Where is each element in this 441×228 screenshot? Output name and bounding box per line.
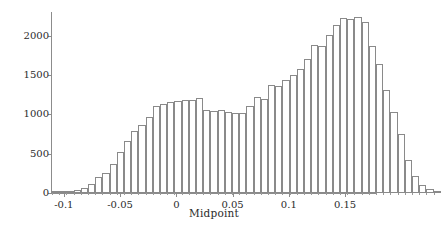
x-axis-minor-tick bbox=[117, 193, 118, 195]
x-axis-minor-tick bbox=[297, 193, 298, 195]
x-axis-minor-tick bbox=[304, 193, 305, 195]
histogram-bar bbox=[354, 17, 361, 193]
x-axis-minor-tick bbox=[340, 193, 341, 195]
x-axis-minor-tick bbox=[434, 193, 435, 195]
histogram-bar bbox=[419, 185, 426, 193]
histogram-bar bbox=[362, 22, 369, 193]
histogram-bar bbox=[225, 112, 232, 193]
histogram-bar bbox=[160, 104, 167, 193]
histogram-bar bbox=[74, 190, 81, 193]
histogram-bar bbox=[304, 59, 311, 193]
x-axis-tick bbox=[289, 193, 290, 197]
x-axis-minor-tick bbox=[419, 193, 420, 195]
histogram-bar bbox=[52, 191, 59, 193]
histogram-bar bbox=[232, 113, 239, 193]
x-axis-minor-tick bbox=[311, 193, 312, 195]
histogram-bar bbox=[333, 25, 340, 193]
x-axis-tick bbox=[64, 193, 65, 197]
x-axis-minor-tick bbox=[124, 193, 125, 195]
x-axis-minor-tick bbox=[275, 193, 276, 195]
x-axis-minor-tick bbox=[347, 193, 348, 195]
histogram-bar bbox=[405, 160, 412, 193]
histogram-bar bbox=[117, 152, 124, 193]
x-axis-minor-tick bbox=[412, 193, 413, 195]
histogram-bar bbox=[146, 117, 153, 193]
histogram-bar bbox=[282, 80, 289, 193]
x-axis-line bbox=[51, 193, 376, 194]
x-axis-minor-tick bbox=[110, 193, 111, 195]
histogram-bar bbox=[167, 102, 174, 193]
histogram-bars bbox=[52, 12, 376, 193]
x-axis-tick bbox=[176, 193, 177, 197]
x-axis-minor-tick bbox=[369, 193, 370, 195]
x-axis-minor-tick bbox=[59, 193, 60, 195]
histogram-bar bbox=[311, 45, 318, 193]
y-axis-tick-label: 500 bbox=[30, 147, 49, 160]
x-axis-minor-tick bbox=[333, 193, 334, 195]
x-axis-minor-tick bbox=[246, 193, 247, 195]
histogram-bar bbox=[189, 100, 196, 193]
histogram-bar bbox=[297, 69, 304, 193]
x-axis-minor-tick bbox=[88, 193, 89, 195]
y-axis-tick-label: 0 bbox=[43, 186, 49, 199]
histogram-bar bbox=[369, 46, 376, 193]
histogram-bar bbox=[88, 184, 95, 193]
histogram-bar bbox=[81, 188, 88, 193]
x-axis-minor-tick bbox=[282, 193, 283, 195]
x-axis-minor-tick bbox=[405, 193, 406, 195]
x-axis-minor-tick bbox=[390, 193, 391, 195]
histogram-bar bbox=[102, 173, 109, 193]
x-axis-minor-tick bbox=[239, 193, 240, 195]
x-axis-minor-tick bbox=[160, 193, 161, 195]
histogram-bar bbox=[412, 176, 419, 193]
histogram-bar bbox=[261, 99, 268, 193]
x-axis-minor-tick bbox=[326, 193, 327, 195]
histogram-bar bbox=[95, 177, 102, 193]
histogram-bar bbox=[196, 98, 203, 193]
x-axis-minor-tick bbox=[52, 193, 53, 195]
histogram-bar bbox=[239, 113, 246, 193]
histogram-bar bbox=[131, 131, 138, 193]
histogram-bar bbox=[326, 35, 333, 193]
x-axis-minor-tick bbox=[210, 193, 211, 195]
histogram-bar bbox=[66, 191, 73, 193]
histogram-bar bbox=[138, 125, 145, 193]
x-axis-minor-tick bbox=[426, 193, 427, 195]
x-axis-minor-tick bbox=[138, 193, 139, 195]
x-axis-minor-tick bbox=[167, 193, 168, 195]
histogram-bar bbox=[218, 110, 225, 193]
x-axis-minor-tick bbox=[174, 193, 175, 195]
x-axis-minor-tick bbox=[376, 193, 377, 195]
x-axis-minor-tick bbox=[102, 193, 103, 195]
x-axis-minor-tick bbox=[146, 193, 147, 195]
histogram-bar bbox=[383, 90, 390, 193]
x-axis-minor-tick bbox=[196, 193, 197, 195]
histogram-bar bbox=[153, 106, 160, 193]
histogram-bar bbox=[268, 85, 275, 193]
histogram-bar bbox=[434, 191, 441, 193]
histogram-bar bbox=[390, 112, 397, 193]
x-axis-minor-tick bbox=[81, 193, 82, 195]
y-axis-tick-label: 1500 bbox=[24, 68, 49, 81]
x-axis-minor-tick bbox=[66, 193, 67, 195]
histogram-bar bbox=[182, 100, 189, 193]
histogram-bar bbox=[347, 19, 354, 193]
histogram-bar bbox=[398, 134, 405, 193]
x-axis-minor-tick bbox=[398, 193, 399, 195]
histogram-bar bbox=[174, 101, 181, 193]
histogram-bar bbox=[376, 64, 383, 193]
x-axis-minor-tick bbox=[131, 193, 132, 195]
histogram-bar bbox=[210, 111, 217, 193]
x-axis-minor-tick bbox=[362, 193, 363, 195]
x-axis-minor-tick bbox=[218, 193, 219, 195]
x-axis-tick bbox=[345, 193, 346, 197]
histogram-bar bbox=[290, 75, 297, 193]
x-axis-minor-tick bbox=[153, 193, 154, 195]
histogram-bar bbox=[426, 189, 433, 193]
histogram-bar bbox=[124, 141, 131, 193]
x-axis-minor-tick bbox=[74, 193, 75, 195]
x-axis-minor-tick bbox=[354, 193, 355, 195]
histogram-bar bbox=[203, 110, 210, 193]
x-axis-minor-tick bbox=[203, 193, 204, 195]
